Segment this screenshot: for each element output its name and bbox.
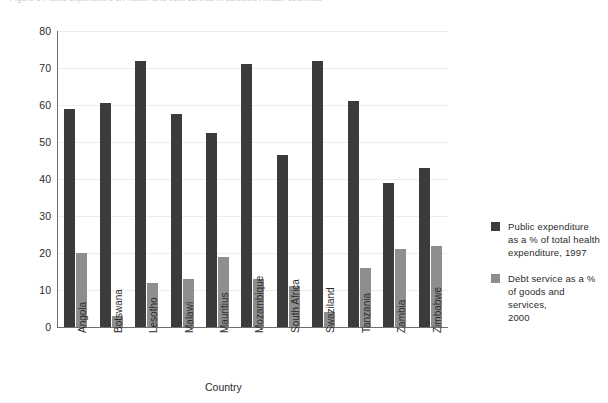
bar-group <box>348 31 371 327</box>
x-axis-title: Country <box>205 381 242 393</box>
x-tick-label: Tanzania <box>361 293 372 333</box>
legend-label-line2: of goods and services, <box>508 285 603 311</box>
x-tick-label: Zimbabwe <box>432 287 443 333</box>
chart-legend: Public expenditure as a % of total healt… <box>491 220 603 337</box>
bar-malawi-series-0 <box>171 114 182 327</box>
figure-chart: Figure 1 Public expenditure on health an… <box>0 0 608 403</box>
bar-zimbabwe-series-0 <box>419 168 430 327</box>
bar-mozambique-series-0 <box>241 64 252 327</box>
y-tick-label: 70 <box>27 62 51 74</box>
x-tick-label: Lesotho <box>148 297 159 333</box>
bar-group <box>100 31 123 327</box>
bar-swaziland-series-0 <box>312 61 323 327</box>
bar-group <box>312 31 335 327</box>
x-tick-label: Botswana <box>113 289 124 333</box>
y-tick-label: 20 <box>27 247 51 259</box>
legend-label-line1: Public expenditure <box>508 220 603 233</box>
bar-group <box>206 31 229 327</box>
x-tick-label: Swaziland <box>325 287 336 333</box>
x-tick-label: South Africa <box>290 279 301 333</box>
y-tick-label: 40 <box>27 173 51 185</box>
figure-caption: Figure 1 Public expenditure on health an… <box>10 0 570 3</box>
bar-angola-series-0 <box>64 109 75 327</box>
legend-item-debt-service: Debt service as a % of goods and service… <box>491 272 603 324</box>
x-tick-label: Malawi <box>184 302 195 333</box>
bar-group <box>383 31 406 327</box>
bar-mauritius-series-0 <box>206 133 217 327</box>
legend-label-line3: expenditure, 1997 <box>508 246 603 259</box>
legend-label-line3: 2000 <box>508 311 603 324</box>
y-tick-label: 30 <box>27 210 51 222</box>
bar-south-africa-series-0 <box>277 155 288 327</box>
x-tick-label: Mozambique <box>254 276 265 333</box>
y-tick-label: 0 <box>27 321 51 333</box>
x-tick-label: Zambia <box>396 300 407 333</box>
legend-label-line1: Debt service as a % <box>508 272 603 285</box>
bar-botswana-series-0 <box>100 103 111 327</box>
legend-swatch-icon-public-expenditure <box>491 222 500 231</box>
bar-tanzania-series-0 <box>348 101 359 327</box>
y-tick-label: 10 <box>27 284 51 296</box>
x-tick-label: Angola <box>77 302 88 333</box>
legend-label-line2: as a % of total health <box>508 233 603 246</box>
bar-group <box>135 31 158 327</box>
bar-group <box>419 31 442 327</box>
y-tick-label: 50 <box>27 136 51 148</box>
bar-group <box>171 31 194 327</box>
plot-area <box>57 31 448 328</box>
legend-swatch-icon-debt-service <box>491 274 500 283</box>
x-tick-label: Mauritius <box>219 292 230 333</box>
bar-lesotho-series-0 <box>135 61 146 327</box>
y-tick-label: 80 <box>27 25 51 37</box>
y-tick-label: 60 <box>27 99 51 111</box>
legend-item-public-expenditure: Public expenditure as a % of total healt… <box>491 220 603 259</box>
bar-zambia-series-0 <box>383 183 394 327</box>
bar-group <box>64 31 87 327</box>
